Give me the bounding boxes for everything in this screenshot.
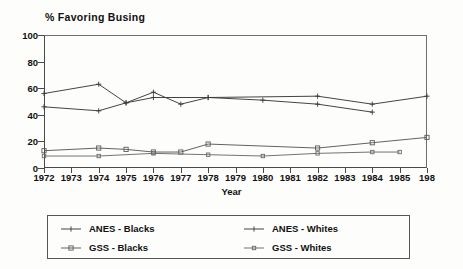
legend-item-gss-whites[interactable]: GSS - Whites xyxy=(243,242,332,253)
y-tick-mark xyxy=(38,62,44,63)
legend-item-label: ANES - Whites xyxy=(272,223,338,234)
x-tick-label: 1981 xyxy=(280,172,301,183)
data-point-marker xyxy=(315,94,320,99)
legend-marker-icon xyxy=(243,243,265,253)
x-tick-label: 1974 xyxy=(88,172,109,183)
data-point-marker xyxy=(315,102,320,107)
data-point-marker xyxy=(370,102,375,107)
data-point-marker xyxy=(424,94,429,99)
data-point-marker xyxy=(96,108,101,113)
chart-legend: ANES - BlacksANES - WhitesGSS - BlacksGS… xyxy=(47,215,410,259)
x-tick-label: 1980 xyxy=(252,172,273,183)
x-tick-label: 1976 xyxy=(143,172,164,183)
legend-item-anes-blacks[interactable]: ANES - Blacks xyxy=(60,223,154,234)
y-tick-mark xyxy=(38,35,44,36)
data-point-marker xyxy=(41,104,46,109)
chart-page: % Favoring Busing 020406080100 Year 1972… xyxy=(0,0,463,269)
series-line xyxy=(44,137,427,152)
legend-marker-icon xyxy=(60,224,82,234)
x-tick-label: 1982 xyxy=(307,172,328,183)
series-anes-whites xyxy=(41,95,374,115)
y-tick-mark xyxy=(38,115,44,116)
legend-item-gss-blacks[interactable]: GSS - Blacks xyxy=(60,242,148,253)
x-tick-label: 1973 xyxy=(61,172,82,183)
legend-item-anes-whites[interactable]: ANES - Whites xyxy=(243,223,338,234)
data-point-marker xyxy=(206,95,211,100)
data-point-marker xyxy=(151,90,156,95)
x-tick-label: 1983 xyxy=(334,172,355,183)
data-point-marker xyxy=(41,91,46,96)
x-tick-label: 1979 xyxy=(225,172,246,183)
data-point-marker xyxy=(370,110,375,115)
x-tick-label: 1978 xyxy=(198,172,219,183)
x-tick-label: 198 xyxy=(419,172,435,183)
legend-marker-icon xyxy=(243,224,265,234)
legend-marker-icon xyxy=(60,243,82,253)
data-point-marker xyxy=(260,98,265,103)
x-tick-label: 1972 xyxy=(33,172,54,183)
x-tick-label: 1985 xyxy=(389,172,410,183)
legend-item-label: GSS - Blacks xyxy=(89,242,148,253)
legend-item-label: ANES - Blacks xyxy=(89,223,154,234)
data-point-marker xyxy=(123,100,128,105)
series-line xyxy=(44,84,427,104)
series-anes-blacks xyxy=(41,82,429,107)
y-tick-mark xyxy=(38,88,44,89)
legend-item-label: GSS - Whites xyxy=(272,242,332,253)
chart-panel: % Favoring Busing 020406080100 Year 1972… xyxy=(0,0,463,205)
x-tick-label: 1984 xyxy=(362,172,383,183)
x-axis-title: Year xyxy=(0,186,463,197)
series-gss-whites xyxy=(42,150,401,157)
x-tick-label: 1975 xyxy=(115,172,136,183)
data-point-marker xyxy=(178,102,183,107)
data-point-marker xyxy=(96,82,101,87)
x-tick-label: 1977 xyxy=(170,172,191,183)
data-point-marker xyxy=(151,95,156,100)
y-tick-mark xyxy=(38,141,44,142)
